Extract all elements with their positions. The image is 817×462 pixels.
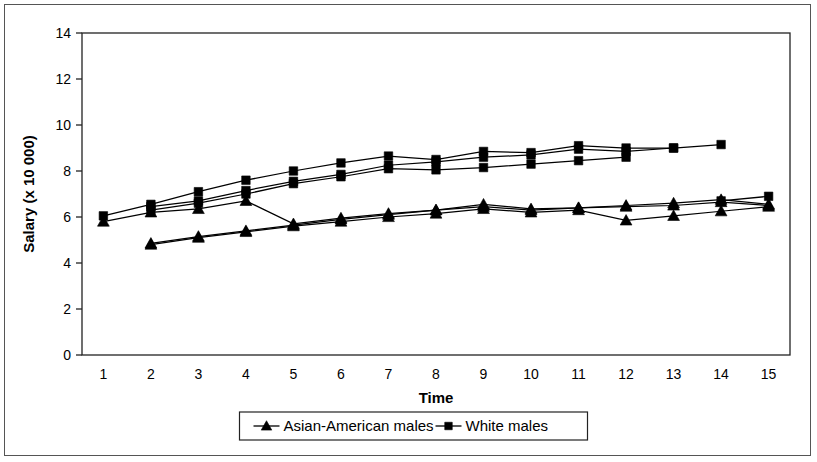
data-point-square-marker xyxy=(622,153,631,162)
data-point-square-marker xyxy=(384,164,393,173)
data-point-square-marker xyxy=(574,156,583,165)
data-point-square-marker xyxy=(669,144,678,153)
x-tick-label: 2 xyxy=(147,366,155,382)
y-tick-label: 14 xyxy=(55,25,71,41)
series-white-males-cohort-1 xyxy=(99,140,725,220)
data-point-square-marker xyxy=(479,163,488,172)
y-tick-label: 12 xyxy=(55,71,71,87)
x-tick-label: 13 xyxy=(666,366,682,382)
data-point-square-marker xyxy=(337,173,346,182)
y-tick-label: 0 xyxy=(63,347,71,363)
legend-label: White males xyxy=(466,417,549,434)
data-point-square-marker xyxy=(574,145,583,154)
data-point-square-marker xyxy=(289,179,298,188)
x-tick-label: 7 xyxy=(385,366,393,382)
x-tick-label: 6 xyxy=(337,366,345,382)
data-point-square-marker xyxy=(527,160,536,169)
x-axis-label: Time xyxy=(419,389,454,406)
data-point-square-marker xyxy=(527,151,536,160)
data-point-square-marker xyxy=(717,140,726,149)
series-line xyxy=(151,207,769,245)
data-point-square-marker xyxy=(337,159,346,168)
series-white-males-cohort-2 xyxy=(147,144,678,211)
data-point-square-marker xyxy=(479,153,488,162)
axes-layer xyxy=(76,33,790,355)
x-tick-label: 1 xyxy=(99,366,107,382)
data-point-square-marker xyxy=(384,152,393,161)
y-tick-label: 10 xyxy=(55,117,71,133)
x-tick-label: 4 xyxy=(242,366,250,382)
x-tick-label: 10 xyxy=(523,366,539,382)
y-tick-label: 6 xyxy=(63,209,71,225)
chart-plot-area: 02468101214123456789101112131415Salary (… xyxy=(0,0,817,462)
x-tick-label: 9 xyxy=(480,366,488,382)
y-tick-label: 2 xyxy=(63,301,71,317)
x-tick-label: 14 xyxy=(713,366,729,382)
x-tick-label: 11 xyxy=(571,366,586,382)
chart-legend: Asian-American malesWhite males xyxy=(240,412,588,440)
salary-over-time-line-chart: 02468101214123456789101112131415Salary (… xyxy=(0,0,817,462)
x-tick-label: 15 xyxy=(761,366,777,382)
x-tick-label: 5 xyxy=(290,366,298,382)
x-tick-label: 3 xyxy=(195,366,203,382)
data-point-square-marker xyxy=(432,166,441,175)
x-tick-label: 8 xyxy=(432,366,440,382)
data-point-square-marker xyxy=(432,158,441,167)
x-tick-label: 12 xyxy=(618,366,634,382)
legend-square-icon xyxy=(445,422,453,430)
data-series-layer xyxy=(97,140,774,249)
y-tick-label: 8 xyxy=(63,163,71,179)
data-point-square-marker xyxy=(289,167,298,176)
figure-canvas: 02468101214123456789101112131415Salary (… xyxy=(0,0,817,462)
y-axis-label: Salary (x 10 000) xyxy=(20,135,37,253)
legend-label: Asian-American males xyxy=(284,417,434,434)
y-tick-label: 4 xyxy=(63,255,71,271)
data-point-square-marker xyxy=(242,176,251,185)
series-asian-american-males-cohort-2 xyxy=(145,196,774,248)
data-point-square-marker xyxy=(194,187,203,196)
